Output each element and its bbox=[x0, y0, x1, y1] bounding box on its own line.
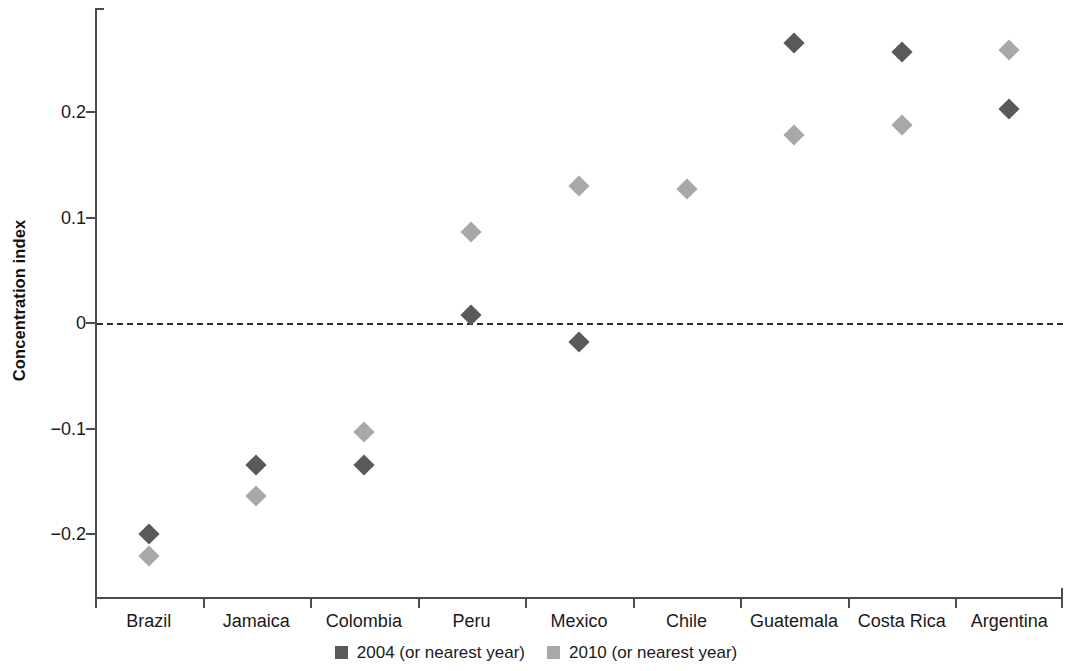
data-point-marker bbox=[138, 523, 159, 544]
y-axis-line bbox=[95, 8, 97, 599]
data-point-marker bbox=[891, 114, 912, 135]
x-axis-category-label-chile: Chile bbox=[666, 612, 707, 632]
y-axis-title-text: Concentration index bbox=[11, 219, 30, 380]
x-axis-category-label-argentina: Argentina bbox=[971, 612, 1048, 632]
data-point-marker bbox=[461, 304, 482, 325]
y-axis-tick bbox=[86, 533, 95, 535]
x-axis-category-label-jamaica: Jamaica bbox=[223, 612, 290, 632]
y-axis-tick bbox=[86, 428, 95, 430]
data-point-marker bbox=[676, 178, 697, 199]
x-axis-category-label-brazil: Brazil bbox=[126, 612, 171, 632]
y-axis-tick-labels: −0.2−0.100.10.2 bbox=[40, 8, 86, 599]
data-point-marker bbox=[999, 98, 1020, 119]
x-axis-category-label-mexico: Mexico bbox=[550, 612, 607, 632]
data-point-marker bbox=[138, 546, 159, 567]
legend-label: 2010 (or nearest year) bbox=[569, 644, 737, 661]
data-point-marker bbox=[461, 222, 482, 243]
legend-label: 2004 (or nearest year) bbox=[357, 644, 525, 661]
x-axis-category-label-colombia: Colombia bbox=[326, 612, 402, 632]
y-axis-tick bbox=[86, 322, 95, 324]
data-point-marker bbox=[568, 331, 589, 352]
data-point-marker bbox=[246, 455, 267, 476]
y-axis-tick-label: −0.1 bbox=[50, 420, 86, 438]
data-point-marker bbox=[353, 421, 374, 442]
x-axis-category-label-guatemala: Guatemala bbox=[750, 612, 838, 632]
y-axis-tick-label: −0.2 bbox=[50, 525, 86, 543]
x-axis-tick bbox=[418, 597, 420, 608]
x-axis-tick bbox=[203, 597, 205, 608]
data-point-marker bbox=[246, 485, 267, 506]
x-axis-line bbox=[95, 597, 1063, 599]
plot-area: BrazilJamaicaColombiaPeruMexicoChileGuat… bbox=[95, 8, 1063, 599]
x-axis-tick bbox=[848, 597, 850, 608]
x-axis-tick bbox=[1061, 597, 1063, 608]
data-point-marker bbox=[784, 33, 805, 54]
data-point-marker bbox=[568, 175, 589, 196]
y-axis-tick bbox=[86, 111, 95, 113]
legend-item-1[interactable]: 2010 (or nearest year) bbox=[547, 644, 737, 661]
x-axis-tick bbox=[740, 597, 742, 608]
zero-reference-line-dash bbox=[97, 323, 1063, 325]
y-axis-tick bbox=[86, 217, 95, 219]
concentration-index-chart: Concentration index −0.2−0.100.10.2 Braz… bbox=[0, 0, 1072, 671]
y-axis-tick-label: 0.2 bbox=[61, 103, 86, 121]
x-axis-tick bbox=[525, 597, 527, 608]
x-axis-tick bbox=[955, 597, 957, 608]
data-point-marker bbox=[891, 41, 912, 62]
y-axis-tick-label: 0 bbox=[76, 314, 86, 332]
y-axis-tick-label: 0.1 bbox=[61, 209, 86, 227]
x-axis-category-label-peru: Peru bbox=[452, 612, 490, 632]
y-axis-title: Concentration index bbox=[0, 0, 40, 600]
chart-legend: 2004 (or nearest year)2010 (or nearest y… bbox=[0, 644, 1072, 661]
x-axis-tick bbox=[95, 597, 97, 608]
x-axis-tick bbox=[310, 597, 312, 608]
data-point-marker bbox=[784, 125, 805, 146]
legend-swatch-icon bbox=[547, 646, 560, 659]
data-point-marker bbox=[999, 39, 1020, 60]
x-axis-tick bbox=[633, 597, 635, 608]
legend-swatch-icon bbox=[335, 646, 348, 659]
y-axis-top-cap bbox=[95, 8, 104, 10]
legend-item-0[interactable]: 2004 (or nearest year) bbox=[335, 644, 525, 661]
data-point-marker bbox=[353, 455, 374, 476]
x-axis-category-label-costa-rica: Costa Rica bbox=[858, 612, 946, 632]
